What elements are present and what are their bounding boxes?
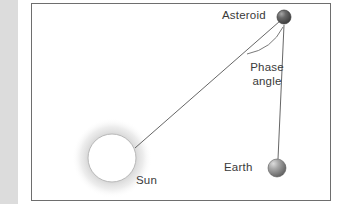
earth-label: Earth <box>224 161 253 173</box>
asteroid-earth-line <box>278 25 284 159</box>
sun-body <box>88 134 136 182</box>
phase-angle-arc <box>247 27 283 54</box>
phase-angle-label: Phase angle <box>239 61 295 88</box>
figure-page: Asteroid Earth Sun Phase angle <box>0 0 350 214</box>
earth-body <box>268 159 286 177</box>
page-margin-bar <box>0 0 18 204</box>
sun-label: Sun <box>136 174 157 186</box>
asteroid-label: Asteroid <box>222 9 266 21</box>
phase-angle-label-line1: Phase <box>239 61 295 75</box>
asteroid-body <box>277 10 291 24</box>
diagram-canvas <box>31 3 331 201</box>
phase-angle-label-line2: angle <box>239 75 295 89</box>
